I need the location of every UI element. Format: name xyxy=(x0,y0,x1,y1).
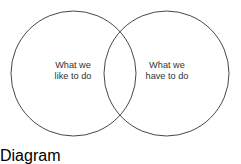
venn-diagram: What we like to do What we have to do xyxy=(0,0,241,147)
venn-circle-right xyxy=(104,11,229,136)
venn-circles-svg xyxy=(0,0,241,147)
venn-circle-left xyxy=(11,11,136,136)
